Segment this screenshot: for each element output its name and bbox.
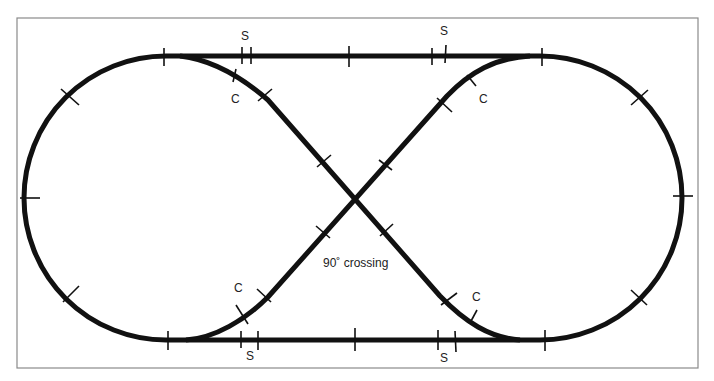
- curve-label-bottom-right: C: [472, 290, 481, 304]
- curve-label-top-left: C: [231, 92, 240, 106]
- crossing-label: 90˚ crossing: [323, 256, 388, 270]
- track-diagram: S S S S C C C C 90˚ crossing: [0, 0, 714, 381]
- switch-label-bottom-right: S: [440, 351, 448, 365]
- switch-label-top-left: S: [241, 29, 249, 43]
- switch-label-top-right: S: [440, 24, 448, 38]
- curve-label-bottom-left: C: [234, 281, 243, 295]
- switch-label-bottom-left: S: [246, 349, 254, 363]
- curve-label-top-right: C: [479, 92, 488, 106]
